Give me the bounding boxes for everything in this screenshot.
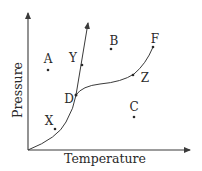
point-z-dot bbox=[132, 74, 135, 77]
point-f-dot bbox=[152, 46, 155, 49]
point-x-label: X bbox=[45, 114, 54, 128]
point-y-dot bbox=[81, 64, 84, 67]
point-a-label: A bbox=[43, 52, 53, 66]
point-b-label: B bbox=[110, 34, 119, 48]
point-b-dot bbox=[110, 48, 113, 51]
phase-diagram: Pressure Temperature A B C D F X Y Z bbox=[0, 0, 202, 171]
point-c-label: C bbox=[129, 100, 138, 114]
point-a-dot bbox=[47, 69, 50, 72]
point-y-label: Y bbox=[68, 51, 78, 65]
point-d-dot bbox=[75, 94, 78, 97]
point-z-label: Z bbox=[141, 71, 149, 85]
fusion-curve bbox=[76, 23, 88, 95]
point-d-label: D bbox=[64, 92, 74, 106]
y-axis-label: Pressure bbox=[10, 62, 25, 118]
point-c-dot bbox=[133, 116, 136, 119]
point-f-label: F bbox=[151, 32, 159, 46]
point-x-dot bbox=[54, 128, 57, 131]
x-axis-label: Temperature bbox=[64, 151, 146, 166]
